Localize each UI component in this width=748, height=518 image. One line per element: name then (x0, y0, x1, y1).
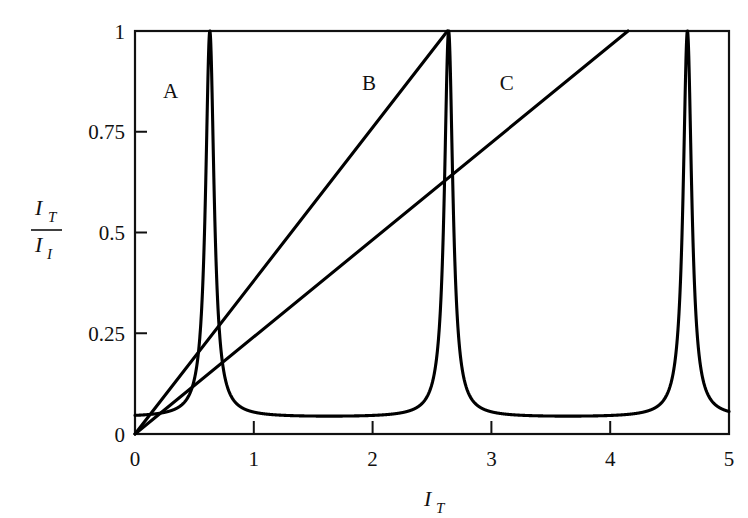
y-axis-denominator-main: I (34, 232, 44, 257)
x-tick-label-0: 0 (130, 447, 141, 471)
y-tick-label-0-5: 0.5 (99, 221, 125, 245)
curve-annotations: A B C (163, 71, 514, 103)
x-tick-label-3: 3 (486, 447, 497, 471)
curve-label-b: B (362, 71, 376, 95)
x-axis-title-main: I (423, 486, 433, 511)
series-line-b (135, 31, 447, 434)
y-axis-numerator-sub: T (48, 209, 58, 225)
chart-canvas: 1 0.75 0.5 0.25 0 0 1 2 3 4 5 I T I I I … (0, 0, 748, 518)
curve-label-c: C (500, 71, 514, 95)
curve-label-a: A (163, 79, 179, 103)
x-axis-ticks (254, 421, 610, 434)
y-axis-denominator-sub: I (46, 246, 53, 262)
x-tick-label-1: 1 (249, 447, 260, 471)
series-curve-a (135, 31, 729, 416)
y-axis-tick-labels: 1 0.75 0.5 0.25 0 (88, 20, 125, 447)
x-tick-label-5: 5 (724, 447, 735, 471)
figure-container: 1 0.75 0.5 0.25 0 0 1 2 3 4 5 I T I I I … (0, 0, 748, 518)
x-axis-title: I T (423, 486, 446, 516)
x-tick-label-4: 4 (605, 447, 616, 471)
y-axis-title: I T I I (31, 195, 62, 262)
y-axis-ticks (135, 132, 147, 334)
y-tick-label-0-75: 0.75 (88, 120, 125, 144)
y-axis-numerator-main: I (34, 195, 44, 220)
y-tick-label-0: 0 (115, 423, 126, 447)
x-tick-label-2: 2 (367, 447, 378, 471)
x-axis-tick-labels: 0 1 2 3 4 5 (130, 447, 735, 471)
x-axis-title-sub: T (436, 500, 446, 516)
y-tick-label-1: 1 (115, 20, 126, 44)
y-tick-label-0-25: 0.25 (88, 322, 125, 346)
